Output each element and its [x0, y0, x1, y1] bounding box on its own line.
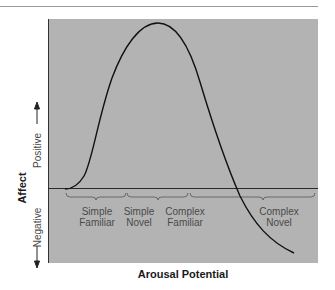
region-label-line: Familiar: [162, 217, 208, 228]
x-axis-title: Arousal Potential: [48, 268, 318, 280]
positive-arrow-head: [35, 102, 40, 109]
region-label-line: Familiar: [74, 217, 120, 228]
y-positive-label: Positive: [32, 128, 43, 174]
region-label-line: Novel: [122, 217, 156, 228]
region-label-line: Novel: [256, 217, 302, 228]
y-axis-title: Affect: [16, 170, 28, 206]
region-label-simple-novel: Simple Novel: [122, 206, 156, 228]
y-negative-label: Negative: [32, 203, 43, 253]
region-label-simple-familiar: Simple Familiar: [74, 206, 120, 228]
region-label-complex-familiar: Complex Familiar: [162, 206, 208, 228]
negative-arrow-head: [35, 261, 40, 268]
chart-canvas: [0, 0, 335, 290]
region-label-line: Simple: [122, 206, 156, 217]
region-label-line: Complex: [162, 206, 208, 217]
region-label-line: Simple: [74, 206, 120, 217]
region-label-complex-novel: Complex Novel: [256, 206, 302, 228]
region-label-line: Complex: [256, 206, 302, 217]
